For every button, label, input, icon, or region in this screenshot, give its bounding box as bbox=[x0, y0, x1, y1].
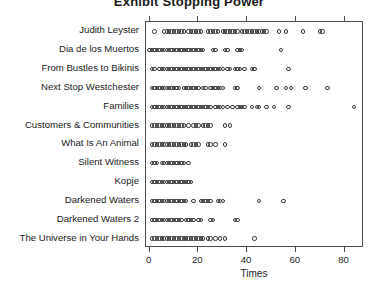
y-axis-label: What Is An Animal bbox=[0, 139, 139, 149]
y-axis-label: Dia de los Muertos bbox=[0, 44, 139, 54]
x-axis-top-ticks bbox=[145, 16, 363, 21]
x-axis-tick-label: 20 bbox=[192, 254, 203, 265]
x-axis-top-tick bbox=[197, 16, 198, 21]
x-axis-tick bbox=[246, 247, 247, 252]
y-axis-label: Darkened Waters 2 bbox=[0, 214, 139, 224]
y-axis-label: Customers & Communities bbox=[0, 120, 139, 130]
x-axis: 020406080 bbox=[145, 247, 363, 287]
x-axis-tick bbox=[295, 247, 296, 252]
x-axis-tick-label: 60 bbox=[289, 254, 300, 265]
y-axis-label: Judith Leyster bbox=[0, 26, 139, 36]
y-axis-label: The Universe in Your Hands bbox=[0, 233, 139, 243]
x-axis-tick-label: 0 bbox=[146, 254, 151, 265]
y-axis-label: Silent Witness bbox=[0, 157, 139, 167]
y-axis-category-labels: Judith LeysterDia de los MuertosFrom Bus… bbox=[0, 21, 378, 247]
chart-title: Exhibit Stopping Power bbox=[0, 0, 378, 9]
x-axis-tick bbox=[149, 247, 150, 252]
x-axis-top-tick bbox=[295, 16, 296, 21]
x-axis-top-tick bbox=[149, 16, 150, 21]
x-axis-tick-label: 40 bbox=[241, 254, 252, 265]
y-axis-label: Next Stop Westchester bbox=[0, 82, 139, 92]
strip-plot-figure: Exhibit Stopping Power Judith LeysterDia… bbox=[0, 0, 378, 300]
x-axis-tick bbox=[197, 247, 198, 252]
y-axis-label: Families bbox=[0, 101, 139, 111]
x-axis-title: Times bbox=[145, 268, 363, 279]
y-axis-label: From Bustles to Bikinis bbox=[0, 63, 139, 73]
x-axis-top-tick bbox=[344, 16, 345, 21]
x-axis-tick-label: 80 bbox=[338, 254, 349, 265]
y-axis-label: Darkened Waters bbox=[0, 195, 139, 205]
y-axis-label: Kopje bbox=[0, 176, 139, 186]
x-axis-tick bbox=[344, 247, 345, 252]
x-axis-top-tick bbox=[246, 16, 247, 21]
